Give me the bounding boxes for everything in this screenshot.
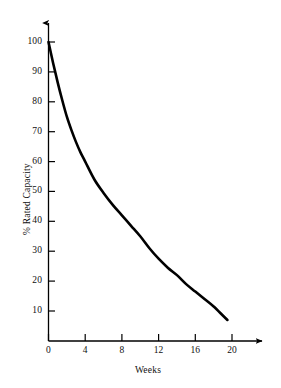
- x-tick-label-16: 16: [190, 346, 200, 356]
- x-axis-ticks: [49, 334, 233, 341]
- y-tick-label-90: 90: [6, 67, 42, 77]
- chart-container: 100 90 80 70 60 50 40 30 20 10 0 4 8 12 …: [0, 0, 281, 388]
- y-tick-label-30: 30: [6, 246, 42, 256]
- x-tick-label-8: 8: [119, 346, 124, 356]
- y-axis-title: % Rated Capacity: [22, 163, 32, 235]
- y-tick-label-80: 80: [6, 97, 42, 107]
- x-tick-label-20: 20: [227, 346, 237, 356]
- y-tick-label-70: 70: [6, 127, 42, 137]
- x-tick-label-0: 0: [46, 346, 51, 356]
- x-axis-title: Weeks: [135, 365, 161, 375]
- y-axis-ticks: [49, 42, 56, 311]
- y-tick-label-100: 100: [6, 37, 42, 47]
- x-tick-label-4: 4: [83, 346, 88, 356]
- chart-plot-area: [0, 0, 281, 388]
- x-tick-label-12: 12: [154, 346, 164, 356]
- capacity-decay-curve: [49, 42, 228, 320]
- y-tick-label-20: 20: [6, 276, 42, 286]
- y-tick-label-10: 10: [6, 306, 42, 316]
